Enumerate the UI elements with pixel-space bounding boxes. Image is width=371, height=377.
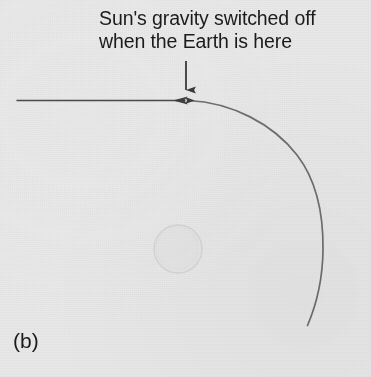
annotation-line-2: when the Earth is here	[99, 30, 361, 53]
annotation-label: Sun's gravity switched off when the Eart…	[99, 7, 361, 52]
figure-panel-b: Sun's gravity switched off when the Eart…	[0, 0, 371, 377]
orbit-diagram-canvas	[0, 0, 371, 377]
annotation-line-1: Sun's gravity switched off	[99, 7, 361, 30]
sun-body-icon	[154, 225, 202, 273]
panel-label: (b)	[13, 329, 39, 353]
orbit-arc-path	[189, 101, 324, 326]
tangent-arrowhead-right	[173, 97, 188, 105]
